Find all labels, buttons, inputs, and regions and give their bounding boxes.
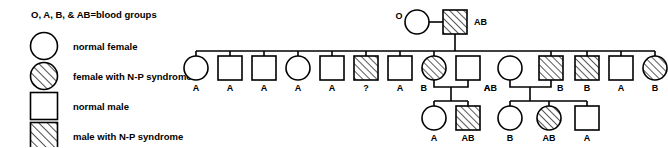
legend-symbol-square-hatched [31, 123, 58, 148]
person-II-4-female-normal [286, 56, 310, 80]
legend-symbol-circle-open [31, 33, 58, 60]
legend-label-normal-female: normal female [73, 41, 137, 52]
blood-group-II-12: B [584, 83, 591, 93]
person-III-2-male-affected [456, 106, 480, 130]
blood-group-II-5: A [329, 83, 336, 93]
blood-group-II-8: B [421, 83, 428, 93]
blood-group-III-2: AB [462, 133, 475, 143]
mating-line-II-10-II-11 [510, 80, 551, 87]
blood-group-II-2: A [227, 83, 234, 93]
person-III-1-female-normal [422, 106, 446, 130]
legend-label-affected-female: female with N-P syndrome [73, 71, 192, 82]
pedigree-chart: O, A, B, & AB=blood groups normal female… [0, 0, 668, 147]
blood-group-II-10: AB [484, 83, 497, 93]
person-II-3-male-normal [252, 56, 276, 80]
legend-label-affected-male: male with N-P syndrome [73, 131, 183, 142]
blood-group-II-13: A [618, 83, 625, 93]
person-II-10-female-normal [498, 56, 522, 80]
person-II-8-female-affected [422, 56, 446, 80]
person-II-9-male-normal [456, 56, 480, 80]
person-II-12-male-affected [575, 56, 599, 80]
blood-group-I-2: AB [474, 17, 487, 27]
legend-heading: O, A, B, & AB=blood groups [31, 9, 157, 20]
person-III-3-female-normal [498, 106, 522, 130]
person-I-1-female-normal [405, 10, 429, 34]
blood-group-II-7: A [397, 83, 404, 93]
blood-group-II-1: A [193, 83, 200, 93]
legend-label-normal-male: normal male [73, 101, 129, 112]
person-II-5-male-normal [320, 56, 344, 80]
blood-group-III-5: A [584, 133, 591, 143]
blood-group-I-1: O [395, 11, 402, 21]
mating-line-II-8-II-9 [434, 80, 468, 87]
person-II-14-female-affected [643, 56, 667, 80]
legend-symbol-square-open [31, 93, 58, 120]
blood-group-II-14: B [652, 83, 659, 93]
person-III-4-female-affected [537, 106, 561, 130]
blood-group-II-4: A [295, 83, 302, 93]
blood-group-II-6: ? [363, 83, 369, 93]
pedigree-svg: O, A, B, & AB=blood groups normal female… [0, 0, 668, 147]
person-II-7-male-normal [388, 56, 412, 80]
blood-group-III-4: AB [543, 133, 556, 143]
person-II-2-male-normal [218, 56, 242, 80]
blood-group-III-1: A [431, 133, 438, 143]
blood-group-III-3: B [507, 133, 514, 143]
person-II-1-female-normal [184, 56, 208, 80]
person-III-5-male-normal [575, 106, 599, 130]
blood-group-II-11: B [557, 83, 564, 93]
person-II-13-male-normal [609, 56, 633, 80]
person-II-11-male-affected [539, 56, 563, 80]
person-I-2-male-affected [443, 10, 467, 34]
person-II-6-male-affected [354, 56, 378, 80]
blood-group-II-3: A [261, 83, 268, 93]
legend-symbol-circle-hatched [31, 63, 58, 90]
